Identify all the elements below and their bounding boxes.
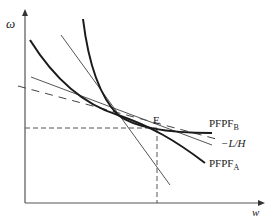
point-e-label: E (153, 114, 160, 126)
pfpf-a-label: PFPFA (209, 157, 239, 172)
y-axis-arrow-icon (22, 9, 28, 16)
y-axis-label: ω (6, 16, 15, 32)
x-axis-label: w (252, 206, 259, 218)
slope-label: −L/H (221, 137, 246, 149)
pfpf-b-curve (83, 19, 212, 133)
tangent-line-flat (31, 77, 212, 145)
pfpf-b-label: PFPFB (209, 117, 239, 132)
tangent-line-steep (61, 35, 170, 185)
diagram (0, 0, 278, 220)
pfpf-a-curve (30, 40, 205, 163)
